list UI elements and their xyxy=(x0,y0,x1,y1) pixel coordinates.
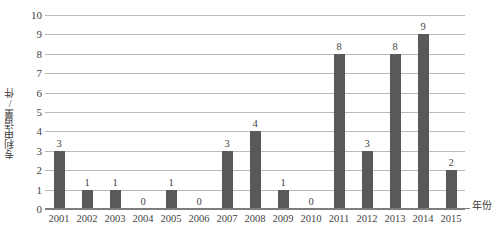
bar-value-label: 3 xyxy=(47,138,71,149)
y-axis-tick-label: 3 xyxy=(20,145,42,157)
bar xyxy=(446,170,457,209)
x-axis-tick-label: 2015 xyxy=(434,212,468,225)
bar-value-label: 8 xyxy=(383,41,407,52)
bar-value-label: 0 xyxy=(299,196,323,207)
y-axis-tick-label: 6 xyxy=(20,87,42,99)
bar xyxy=(110,190,121,209)
bar xyxy=(222,151,233,209)
y-axis-tick-label: 2 xyxy=(20,164,42,176)
y-axis-tick-label: 4 xyxy=(20,125,42,137)
plot-area: 311010341083892 xyxy=(45,15,465,209)
bar xyxy=(54,151,65,209)
bar-value-label: 0 xyxy=(131,196,155,207)
y-axis-tick-label: 1 xyxy=(20,184,42,196)
gridline xyxy=(45,34,465,35)
bar xyxy=(82,190,93,209)
bar-value-label: 1 xyxy=(159,177,183,188)
bar-value-label: 0 xyxy=(187,196,211,207)
bar xyxy=(390,54,401,209)
bar-value-label: 4 xyxy=(243,118,267,129)
y-axis-tick-label: 0 xyxy=(20,203,42,215)
x-axis-tick-labels: 2001200220032004200520062007200820092010… xyxy=(45,212,465,232)
bar-value-label: 2 xyxy=(439,157,463,168)
bar xyxy=(278,190,289,209)
bar xyxy=(362,151,373,209)
y-axis-tick-label: 7 xyxy=(20,67,42,79)
y-axis-title: 专利申请量/件 xyxy=(2,60,18,188)
gridline xyxy=(45,112,465,113)
bar xyxy=(334,54,345,209)
gridline xyxy=(45,15,465,16)
y-axis-tick-label: 8 xyxy=(20,48,42,60)
gridline xyxy=(45,93,465,94)
bar xyxy=(166,190,177,209)
bar-value-label: 1 xyxy=(75,177,99,188)
bar-value-label: 9 xyxy=(411,21,435,32)
gridline xyxy=(45,54,465,55)
y-axis-tick-label: 10 xyxy=(20,9,42,21)
y-axis-tick-label: 5 xyxy=(20,106,42,118)
y-axis-tick-labels: 012345678910 xyxy=(20,9,42,209)
x-axis-line xyxy=(45,208,470,209)
bar xyxy=(250,131,261,209)
y-axis-tick-label: 9 xyxy=(20,28,42,40)
gridline xyxy=(45,73,465,74)
bar-value-label: 3 xyxy=(355,138,379,149)
x-axis-title: 年份 xyxy=(472,200,492,212)
bar-value-label: 3 xyxy=(215,138,239,149)
bar-chart: 专利申请量/件 012345678910 311010341083892 200… xyxy=(0,0,498,247)
bar-value-label: 1 xyxy=(271,177,295,188)
bar-value-label: 8 xyxy=(327,41,351,52)
bar xyxy=(418,34,429,209)
bar-value-label: 1 xyxy=(103,177,127,188)
gridline xyxy=(45,209,465,210)
